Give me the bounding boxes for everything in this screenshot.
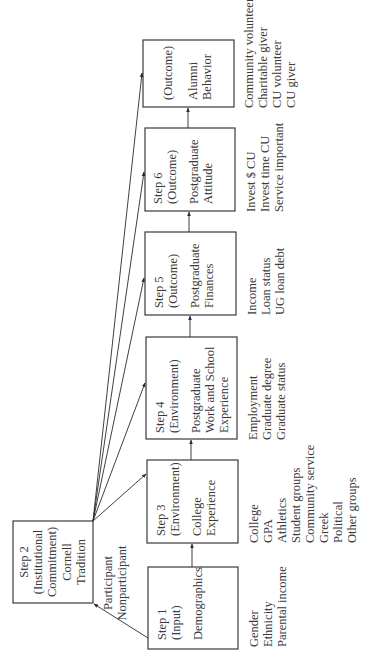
attr-other-groups: Other groups [345,477,359,543]
step4-title: Step 4 [153,401,167,433]
step1-attributes: Gender Ethnicity Parental income [247,566,289,647]
step2-attributes: Participant Nonparticipant [101,545,129,621]
attr-community-service: Community service [303,444,317,543]
attr-ug-loan-debt: UG loan debt [273,247,287,315]
step6-attributes: Invest $ CU Invest time CU Service impor… [244,122,286,212]
step1-category: (Input) [169,605,183,640]
attr-gpa: GPA [261,519,275,543]
attr-college: College [247,504,261,543]
outcome-name-line2: Behavior [200,53,214,100]
flow-diagram: Step 2 (Institutional Commitment) Cornel… [0,0,369,670]
attr-cu-giver: CU giver [284,61,298,108]
attr-political: Political [331,501,345,543]
attr-graduate-degree: Graduate degree [260,357,274,440]
attr-community-volunteer: Community volunteer [242,0,256,108]
outcome-attributes: Community volunteer Charitable giver CU … [242,0,298,108]
step4-attributes: Employment Graduate degree Graduate stat… [246,357,288,440]
attr-service-important: Service important [272,122,286,212]
step5-attributes: Income Loan status UG loan debt [245,247,287,315]
attr-ethnicity: Ethnicity [261,600,275,647]
step6-title: Step 6 [151,172,165,204]
attr-loan-status: Loan status [259,258,273,315]
step5-name-line2: Finances [202,263,216,308]
attr-student-groups: Student groups [289,468,303,543]
step5-name-line1: Postgraduate [188,243,202,308]
attr-nonparticipant: Nonparticipant [115,545,129,621]
step4-category: (Environment) [167,359,181,433]
step5-title: Step 5 [152,276,166,308]
step3-category: (Environment) [168,462,182,536]
attr-employment: Employment [246,375,260,440]
step1-name: Demographics [191,567,205,640]
attr-invest-time-cu: Invest time CU [258,136,272,212]
outcome-category: (Outcome) [161,46,175,100]
attr-participant: Participant [101,555,115,610]
edge-step2-step5 [93,278,144,521]
step6-name-line1: Postgraduate [187,139,201,204]
step2-category-line2: Commitment) [45,527,59,597]
attr-graduate-status: Graduate status [274,362,288,440]
attr-invest-money-cu: Invest $ CU [244,152,258,212]
attr-gender: Gender [247,609,261,647]
edge-step2-step6 [93,172,144,521]
step3-title: Step 3 [154,504,168,536]
outcome-name-line1: Alumni [186,61,200,100]
attr-charitable-giver: Charitable giver [256,26,270,108]
step6-category: (Outcome) [165,150,179,204]
edge-step2-outcome [93,73,142,521]
step4-name-line3: Experience [217,376,231,433]
step2-title: Step 2 [17,546,31,578]
attr-income: Income [245,277,259,315]
step2-name-line2: Tradition [74,538,88,585]
step6-name-line2: Attitude [201,163,215,204]
step4-name-line1: Postgraduate [189,368,203,433]
step3-name-line2: Experience [204,479,218,536]
step2-name-line1: Cornell [60,543,74,581]
attr-greek: Greek [317,512,331,543]
attr-athletics: Athletics [275,498,289,543]
attr-parental-income: Parental income [275,566,289,647]
step1-title: Step 1 [155,608,169,640]
step5-category: (Outcome) [166,254,180,308]
step2-category-line1: (Institutional [31,529,45,594]
attr-cu-volunteer: CU volunteer [270,39,284,108]
step4-name-line2: Work and School [203,346,217,433]
step3-attributes: College GPA Athletics Student groups Com… [247,444,359,543]
step3-name-line1: College [190,497,204,536]
